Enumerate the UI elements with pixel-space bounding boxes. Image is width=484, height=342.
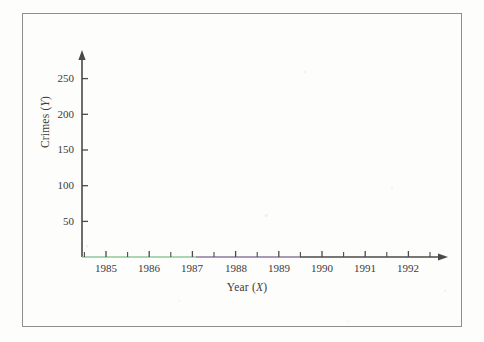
x-tick-label-1992: 1992 (380, 263, 436, 274)
y-tick-label-100: 100 (32, 180, 74, 191)
x-axis-title-prefix: Year ( (227, 281, 256, 293)
y-tick-label-50: 50 (32, 216, 74, 227)
chart-page: 50 100 150 200 250 1985 1986 1987 1988 1… (0, 0, 484, 342)
y-axis-title-suffix: ) (39, 96, 51, 100)
y-axis-title-prefix: Crimes ( (39, 107, 51, 149)
y-axis-ticks (82, 79, 88, 222)
x-axis-title: Year (X) (182, 281, 312, 293)
y-axis-title: Crimes (Y) (39, 72, 51, 172)
x-axis-title-suffix: ) (263, 281, 267, 293)
y-axis-arrowhead (78, 50, 85, 60)
y-axis-title-variable: Y (39, 100, 51, 107)
x-axis-arrowhead (438, 253, 448, 260)
